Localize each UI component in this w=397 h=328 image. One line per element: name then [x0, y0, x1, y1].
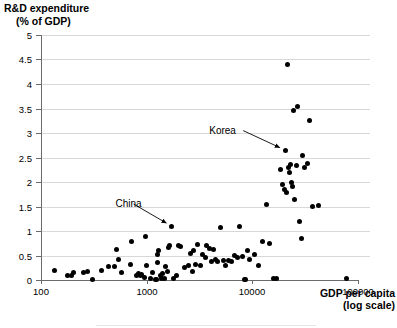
data-point [112, 264, 117, 269]
data-point [283, 148, 288, 153]
y-tick-label: 5 [6, 30, 32, 41]
data-point [203, 255, 208, 260]
data-point [285, 62, 290, 67]
data-point [195, 242, 200, 247]
data-point [167, 243, 172, 248]
data-point [299, 236, 304, 241]
data-point [256, 263, 261, 268]
y-axis-title-line2: (% of GDP) [16, 15, 71, 27]
x-axis-line [41, 280, 359, 281]
data-point [260, 239, 265, 244]
data-point [186, 263, 191, 268]
data-point [218, 225, 223, 230]
data-point [128, 262, 133, 267]
data-point [237, 224, 242, 229]
data-point [264, 202, 269, 207]
data-point [142, 275, 147, 280]
x-axis-title-line1: GDP per capita [277, 287, 395, 299]
data-point [305, 161, 310, 166]
y-tick-label: 0.5 [6, 251, 32, 262]
y-tick-label: 1.5 [6, 202, 32, 213]
data-point [284, 190, 289, 195]
data-point [155, 260, 160, 265]
data-point [114, 247, 119, 252]
data-point [165, 269, 170, 274]
data-point [294, 163, 299, 168]
data-point [291, 108, 296, 113]
y-tick-label: 3.5 [6, 104, 32, 115]
data-point [223, 263, 228, 268]
data-point [129, 239, 134, 244]
data-point [267, 241, 272, 246]
data-point [178, 244, 183, 249]
data-point [316, 203, 321, 208]
data-point [295, 104, 300, 109]
data-point [85, 269, 90, 274]
data-point [169, 224, 174, 229]
data-point [211, 247, 216, 252]
y-tick-label: 2 [6, 177, 32, 188]
plot-area [41, 35, 358, 280]
data-point [143, 234, 148, 239]
data-point [229, 259, 234, 264]
data-point [278, 167, 283, 172]
y-tick-label: 2.5 [6, 153, 32, 164]
data-point [71, 270, 76, 275]
x-tick-label: 10000 [222, 286, 282, 297]
data-point [300, 153, 305, 158]
data-point [292, 197, 297, 202]
x-axis-title-line2: (log scale) [277, 299, 395, 311]
data-point [252, 252, 257, 257]
y-tick-label: 0 [6, 275, 32, 286]
data-point [191, 248, 196, 253]
y-axis-title-line1: R&D expenditure [4, 2, 89, 14]
x-tick-label: 100 [11, 286, 71, 297]
data-point [290, 184, 295, 189]
data-point [144, 263, 149, 268]
data-point [247, 257, 252, 262]
data-point [198, 263, 203, 268]
x-tick-label: 1000 [117, 286, 177, 297]
data-point [297, 219, 302, 224]
data-point [148, 276, 153, 281]
y-tick-label: 4 [6, 79, 32, 90]
data-point [287, 170, 292, 175]
data-point [240, 254, 245, 259]
data-point [119, 270, 124, 275]
data-point [52, 268, 57, 273]
data-point [307, 118, 312, 123]
y-tick-label: 3 [6, 128, 32, 139]
rd-expenditure-scatter-chart: R&D expenditure (% of GDP) 00.511.522.53… [0, 0, 397, 328]
data-point [99, 268, 104, 273]
data-point [288, 162, 293, 167]
y-tick-label: 4.5 [6, 54, 32, 65]
annotation-korea: Korea [209, 125, 236, 136]
data-point [156, 248, 161, 253]
data-point [215, 259, 220, 264]
annotation-china: China [115, 198, 141, 209]
data-point [310, 204, 315, 209]
data-point [245, 248, 250, 253]
data-point [150, 270, 155, 275]
data-point [106, 264, 111, 269]
bottom-rule [96, 325, 316, 326]
data-point [162, 276, 167, 281]
data-point [174, 273, 179, 278]
data-point [116, 257, 121, 262]
y-tick-label: 1 [6, 226, 32, 237]
data-point [190, 269, 195, 274]
